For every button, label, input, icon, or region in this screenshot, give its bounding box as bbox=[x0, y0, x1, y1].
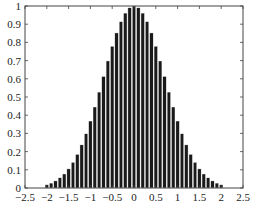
bar bbox=[49, 183, 52, 188]
bar bbox=[132, 6, 135, 188]
x-tick-label: −0.5 bbox=[102, 191, 122, 203]
bar bbox=[115, 33, 118, 188]
y-tick-label: 0.2 bbox=[7, 146, 21, 158]
bar bbox=[167, 92, 170, 188]
bars-group bbox=[45, 6, 223, 188]
y-tick-label: 0.7 bbox=[7, 55, 21, 67]
x-tick-label: 2 bbox=[218, 191, 224, 203]
bar bbox=[102, 76, 105, 188]
bar bbox=[185, 145, 188, 188]
x-tick-label: 0.5 bbox=[149, 191, 163, 203]
bar bbox=[110, 46, 113, 188]
x-tick-label: −1.5 bbox=[59, 191, 79, 203]
x-tick-label: 0 bbox=[131, 191, 137, 203]
bar bbox=[154, 46, 157, 188]
bar bbox=[71, 162, 74, 188]
bar bbox=[158, 61, 161, 188]
bar bbox=[145, 22, 148, 188]
bar bbox=[163, 76, 166, 188]
bar bbox=[54, 181, 57, 188]
bar bbox=[150, 33, 153, 188]
bar bbox=[189, 154, 192, 188]
y-tick-label: 0.9 bbox=[7, 18, 21, 30]
bar bbox=[128, 8, 131, 188]
bar bbox=[211, 181, 214, 188]
bar bbox=[119, 22, 122, 188]
bar bbox=[84, 134, 87, 188]
bar bbox=[180, 134, 183, 188]
bar bbox=[76, 154, 79, 188]
y-tick-label: 0.6 bbox=[7, 73, 21, 85]
bar bbox=[215, 183, 218, 188]
bar bbox=[137, 8, 140, 188]
y-tick-label: 0 bbox=[16, 182, 22, 194]
bar bbox=[89, 121, 92, 188]
bar bbox=[202, 174, 205, 188]
bar bbox=[80, 145, 83, 188]
x-tick-label: 1 bbox=[175, 191, 181, 203]
bar bbox=[206, 178, 209, 188]
bar bbox=[172, 107, 175, 188]
bar bbox=[58, 178, 61, 188]
y-tick-label: 0.3 bbox=[7, 127, 21, 139]
bar bbox=[106, 61, 109, 188]
x-tick-label: −2 bbox=[41, 191, 53, 203]
bar bbox=[97, 92, 100, 188]
bar bbox=[193, 162, 196, 188]
bar-chart: −2.5−2−1.5−1−0.500.511.522.5 00.10.20.30… bbox=[0, 0, 262, 217]
x-tick-label: −1 bbox=[85, 191, 97, 203]
bar bbox=[141, 13, 144, 188]
bar bbox=[63, 174, 66, 188]
x-tick-label: 2.5 bbox=[236, 191, 250, 203]
bar bbox=[176, 121, 179, 188]
y-tick-label: 1 bbox=[16, 0, 22, 12]
y-tick-label: 0.1 bbox=[7, 164, 21, 176]
bar bbox=[93, 107, 96, 188]
bar bbox=[124, 13, 127, 188]
x-tick-label: 1.5 bbox=[193, 191, 207, 203]
y-tick-label: 0.4 bbox=[7, 109, 21, 121]
y-tick-label: 0.5 bbox=[7, 91, 21, 103]
y-tick-label: 0.8 bbox=[7, 36, 21, 48]
